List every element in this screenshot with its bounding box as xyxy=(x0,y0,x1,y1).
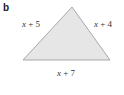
triangle-diagram xyxy=(0,0,124,95)
side-label-right: x + 4 xyxy=(94,19,112,29)
side-label-left: x + 5 xyxy=(22,19,40,29)
triangle-shape xyxy=(23,7,110,60)
expression-rest: + 4 xyxy=(98,19,112,29)
expression-rest: + 7 xyxy=(61,68,75,78)
expression-rest: + 5 xyxy=(26,19,40,29)
side-label-bottom: x + 7 xyxy=(57,68,75,78)
